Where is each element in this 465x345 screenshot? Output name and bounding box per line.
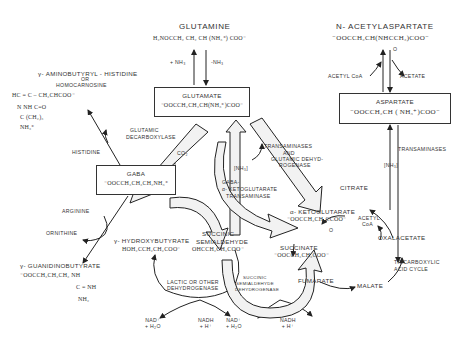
ssadh-label: DEHYDROGENASE — [235, 287, 279, 292]
nh3-mid-label: [NH₃] — [234, 166, 248, 172]
malate-label: MALATE — [357, 282, 383, 289]
gaba-transaminase-label: TRANSAMINASE — [226, 194, 271, 200]
succinic-semialdehyde-name-2: SEMIALDEHYDE — [196, 238, 248, 245]
n-acetylaspartate-carbonyl: O — [393, 47, 397, 53]
gaba-formula: ⁻OOCCH₂CH₂CH₂NH₃⁺ — [97, 180, 175, 187]
homocarnosine-alt-name: HOMOCARNOSINE — [56, 83, 107, 89]
glutamine-formula: H₂NOCCH₂ CH₂ CH (NH₃⁺) COO⁻ — [153, 35, 246, 42]
transaminases-right-label: TRANSAMINASES — [398, 147, 446, 153]
nad-1-line: + H₂O — [145, 324, 161, 330]
glutamate-box: GLUTAMATE ⁻OOCCH₂CH₂CH(NH₃⁺)COO⁻ — [154, 87, 250, 117]
lactic-dehydrogenase-label: DEHYDROGENASE — [167, 286, 218, 292]
ssadh-label: SEMIALDEHYDE — [236, 281, 274, 286]
succinic-semialdehyde-formula: OHCCH₂CH₂COO⁻ — [192, 246, 244, 253]
hydroxybutyrate-name: γ- HYDROXYBUTYRATE — [114, 237, 189, 244]
plus-nh3-label: + NH₃ — [170, 60, 186, 66]
succinate-formula: ⁻OOCCH₂CH₂COO⁻ — [274, 252, 329, 259]
nadh-1: NADH + H⁺ — [198, 318, 214, 330]
gaba-box: GABA ⁻OOCCH₂CH₂CH₂NH₃⁺ — [96, 165, 176, 195]
homocarnosine-formula-line: NH₃⁺ — [20, 124, 35, 131]
acetyl-coa-cycle-label: CoA — [362, 222, 373, 228]
ornithine-label: ORNITHINE — [46, 231, 77, 237]
fumarate-label: FUMARATE — [298, 277, 334, 284]
alpha-ketoglutarate-formula: ⁻OOCCH₂CH₂CCOO⁻ — [287, 216, 346, 223]
aspartate-name: ASPARTATE — [340, 98, 450, 105]
nadh-1-line: + H⁺ — [198, 324, 214, 330]
homocarnosine-formula-line: C (CH₂)₃ — [20, 114, 44, 121]
n-acetylaspartate-formula: ⁻OOCCH₂CH(NHCCH₃)COO⁻ — [332, 34, 429, 42]
glutamate-formula: ⁻OOCCH₂CH₂CH(NH₃⁺)COO⁻ — [155, 102, 249, 109]
oxalacetate-label: OXALACETATE — [378, 234, 425, 241]
acetyl-coa-label: ACETYL CoA — [328, 74, 363, 80]
aspartate-box: ASPARTATE ⁻OOCCH₂CH ( NH₃⁺)COO⁻ — [339, 93, 451, 124]
nad-1: NAD⁺ + H₂O — [145, 318, 161, 330]
co2-label: CO₂ — [177, 151, 188, 157]
transaminases-gdh-label: ROGENASE — [279, 163, 311, 169]
guanidinobutyrate-sub1: C = NH — [76, 284, 96, 291]
ssadh-label: SUCCINIC — [243, 275, 267, 280]
glutamine-name: GLUTAMINE — [179, 22, 230, 31]
acetate-label: ACETATE — [400, 74, 425, 80]
hydroxybutyrate-formula: HOH₂CCH₂CH₂COO⁻ — [122, 246, 181, 253]
nadh-2: NADH + H⁺ — [280, 318, 296, 330]
glutamic-decarboxylase-label-2: DECARBOXYLASE — [126, 135, 176, 141]
succinic-semialdehyde-name: SUCCINIC — [202, 230, 234, 237]
alpha-ketoglutarate-carbonyl: O — [329, 228, 333, 234]
homocarnosine-formula-line: N NH C=O — [17, 104, 46, 111]
guanidinobutyrate-sub2: NH₂ — [78, 296, 89, 303]
nh3-right-label: [NH₃] — [384, 163, 398, 169]
histidine-label: HISTIDINE — [72, 150, 100, 156]
nad-2-line: + H₂O — [226, 324, 242, 330]
aspartate-formula: ⁻OOCCH₂CH ( NH₃⁺)COO⁻ — [340, 108, 450, 116]
nad-2: NAD⁺ + H₂O — [226, 318, 242, 330]
n-acetylaspartate-name: N- ACETYLASPARTATE — [336, 22, 434, 31]
arginine-label: ARGININE — [62, 209, 89, 215]
homocarnosine-formula-line: HC = C – CH₂CHCOO⁻ — [12, 92, 75, 99]
minus-nh3-label: -NH₃ — [211, 60, 224, 66]
glutamate-name: GLUTAMATE — [155, 92, 249, 99]
alpha-ketoglutarate-name: α- KETOGLUTARATE — [290, 208, 355, 215]
guanidinobutyrate-formula: ⁻OOCCH₂CH₂CH₂ NH — [20, 272, 80, 279]
citrate-label: CITRATE — [340, 184, 368, 191]
gaba-name: GABA — [97, 170, 175, 177]
nadh-2-line: + H⁺ — [280, 324, 296, 330]
guanidinobutyrate-name: γ- GUANIDINOBUTYRATE — [20, 262, 100, 269]
succinate-name: SUCCINATE — [280, 244, 318, 251]
tca-cycle-label: ACID CYCLE — [394, 267, 428, 273]
